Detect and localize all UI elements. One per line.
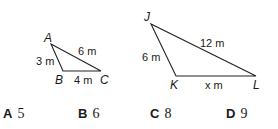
vertex-label-k: K bbox=[170, 78, 179, 92]
choice-b-letter: B bbox=[78, 106, 87, 121]
vertex-label-j: J bbox=[143, 10, 151, 24]
side-label-kl: x m bbox=[205, 79, 223, 91]
choice-d-letter: D bbox=[226, 106, 235, 121]
choice-a-letter: A bbox=[3, 106, 12, 121]
triangle-abc: A B C 3 m 6 m 4 m bbox=[36, 31, 109, 87]
side-label-jl: 12 m bbox=[200, 37, 224, 49]
choice-b[interactable]: B6 bbox=[78, 104, 99, 122]
choice-d[interactable]: D9 bbox=[226, 104, 247, 122]
choice-c[interactable]: C8 bbox=[150, 104, 171, 122]
triangle-jkl-shape bbox=[151, 24, 256, 76]
choice-b-value: 6 bbox=[92, 106, 99, 121]
triangle-jkl: J K L 6 m 12 m x m bbox=[142, 10, 260, 92]
side-label-jk: 6 m bbox=[142, 51, 160, 63]
choice-c-letter: C bbox=[150, 106, 159, 121]
choice-a[interactable]: A5 bbox=[3, 104, 24, 122]
vertex-label-b: B bbox=[55, 73, 63, 87]
side-label-ac: 6 m bbox=[78, 45, 96, 57]
triangle-figures: A B C 3 m 6 m 4 m J K L 6 m 12 m x m bbox=[0, 0, 278, 104]
answer-choices: A5 B6 C8 D9 bbox=[0, 104, 278, 124]
choice-c-value: 8 bbox=[164, 106, 171, 121]
choice-d-value: 9 bbox=[240, 106, 247, 121]
vertex-label-l: L bbox=[253, 78, 260, 92]
vertex-label-a: A bbox=[43, 31, 52, 45]
side-label-bc: 4 m bbox=[74, 74, 92, 86]
vertex-label-c: C bbox=[100, 73, 109, 87]
side-label-ab: 3 m bbox=[36, 55, 54, 67]
choice-a-value: 5 bbox=[17, 106, 24, 121]
